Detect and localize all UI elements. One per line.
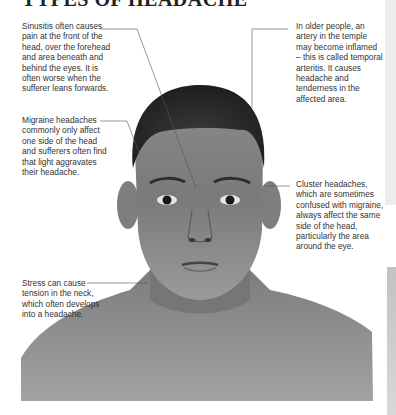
caption-stress: Stress can cause tension in the neck, wh… — [22, 278, 102, 320]
caption-sinusitis: Sinusitis often causes pain at the front… — [22, 21, 112, 94]
caption-temporal-arteritis: In older people, an artery in the temple… — [296, 21, 384, 104]
caption-cluster: Cluster headaches, which are sometimes c… — [296, 179, 384, 252]
leader-temporal-arteritis — [252, 29, 288, 108]
caption-migraine: Migraine headaches commonly only affect … — [22, 115, 112, 177]
